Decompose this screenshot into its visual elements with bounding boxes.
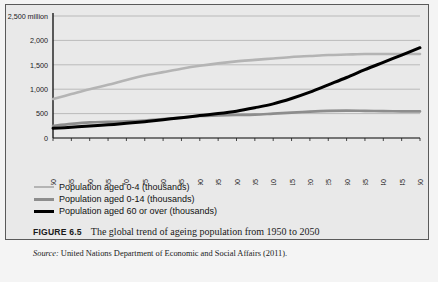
legend-swatch-60-plus-icon <box>34 210 54 213</box>
legend-label-60-plus: Population aged 60 or over (thousands) <box>59 205 217 217</box>
figure-container: 05001,0001,5002,0002,500 million19501955… <box>0 0 438 282</box>
legend-item-0-4: Population aged 0-4 (thousands) <box>34 181 414 193</box>
chart-legend: Population aged 0-4 (thousands) Populati… <box>34 181 414 217</box>
legend-label-0-4: Population aged 0-4 (thousands) <box>59 181 190 193</box>
figure-caption-text: The global trend of ageing population fr… <box>91 226 320 237</box>
series-line-0-14 <box>53 54 420 99</box>
legend-item-0-14: Population aged 0-14 (thousands) <box>34 193 414 205</box>
y-axis-tick-label: 1,500 <box>30 61 48 70</box>
y-axis-tick-label: 2,000 <box>30 36 48 45</box>
y-axis-tick-label: 2,500 million <box>8 12 48 21</box>
chart-frame: 05001,0001,5002,0002,500 million19501955… <box>5 4 429 240</box>
legend-swatch-0-14-icon <box>34 198 54 201</box>
figure-source: Source: United Nations Department of Eco… <box>33 249 287 258</box>
y-axis-tick-label: 500 <box>36 109 48 118</box>
legend-swatch-0-4-icon <box>34 186 54 188</box>
legend-item-60-plus: Population aged 60 or over (thousands) <box>34 205 414 217</box>
y-axis-tick-label: 1,000 <box>30 85 48 94</box>
line-chart: 05001,0001,5002,0002,500 million19501955… <box>6 5 428 185</box>
source-text: United Nations Department of Economic an… <box>61 249 287 258</box>
y-axis-tick-label: 0 <box>44 134 48 143</box>
legend-label-0-14: Population aged 0-14 (thousands) <box>59 193 195 205</box>
plot-area: 05001,0001,5002,0002,500 million19501955… <box>6 5 428 185</box>
figure-caption: FIGURE 6.5The global trend of ageing pop… <box>33 226 319 237</box>
figure-number: FIGURE 6.5 <box>33 227 82 237</box>
x-axis-tick-label: 2050 <box>416 179 425 185</box>
source-label: Source: <box>33 249 59 258</box>
